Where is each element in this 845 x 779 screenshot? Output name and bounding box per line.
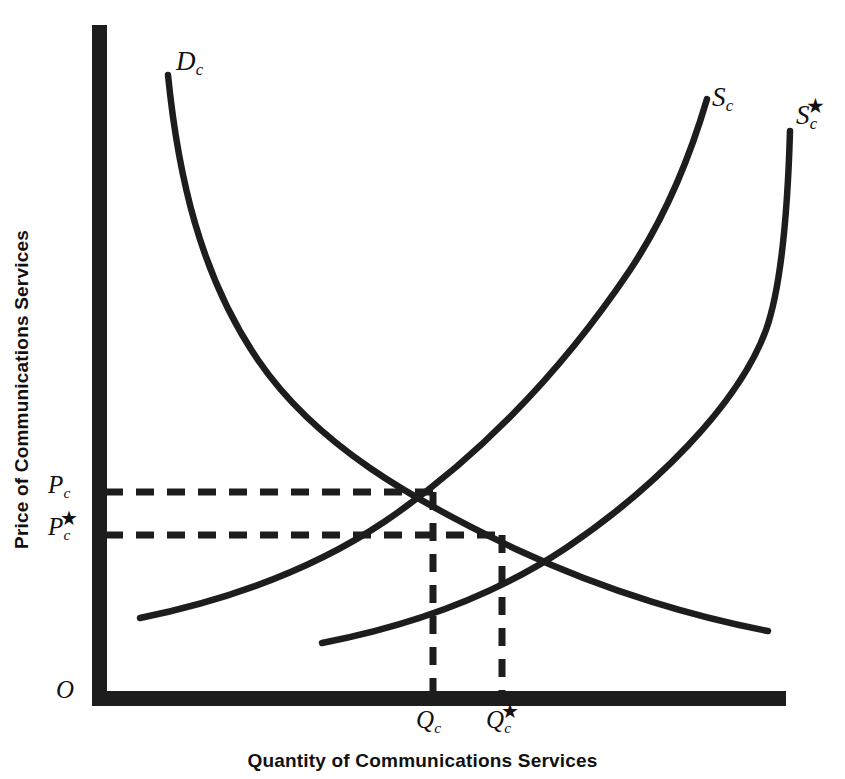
tick-label-price-initial-base: P	[48, 471, 63, 498]
curve-label-demand-base: D	[176, 46, 196, 76]
curve-label-demand-subscript: c	[196, 60, 203, 79]
tick-label-price-new: Pc★	[48, 513, 82, 541]
curve-label-supply-initial: Sc	[712, 82, 733, 113]
origin-label: O	[56, 676, 74, 704]
curve-label-supply-shifted-star: ★	[806, 94, 818, 118]
curve-label-demand: Dc	[176, 46, 203, 77]
tick-label-price-initial-subscript: c	[64, 484, 71, 501]
y-axis-line	[92, 25, 107, 706]
equilibrium-guide-lines	[105, 492, 503, 700]
curve-label-supply-shifted: Sc★	[796, 100, 829, 131]
y-axis-title: Price of Communications Services	[4, 0, 40, 779]
tick-label-quantity-new: Qc★	[486, 706, 522, 734]
curve-label-supply-initial-subscript: c	[726, 96, 733, 115]
tick-label-quantity-new-star: ★	[501, 701, 512, 722]
x-axis-line	[92, 691, 786, 706]
tick-label-price-new-star: ★	[60, 508, 71, 529]
curve-label-supply-initial-base: S	[712, 82, 726, 112]
demand-curve-dc	[168, 75, 768, 631]
supply-demand-figure: Price of Communications Services Quantit…	[0, 0, 845, 779]
x-axis-title: Quantity of Communications Services	[0, 750, 845, 772]
tick-label-quantity-initial-base: Q	[416, 706, 434, 733]
tick-label-quantity-initial: Qc	[416, 706, 441, 734]
supply-curve-sc	[140, 99, 707, 618]
tick-label-quantity-initial-subscript: c	[434, 719, 441, 736]
tick-label-price-initial: Pc	[48, 471, 70, 499]
chart-plot-area	[0, 0, 845, 779]
